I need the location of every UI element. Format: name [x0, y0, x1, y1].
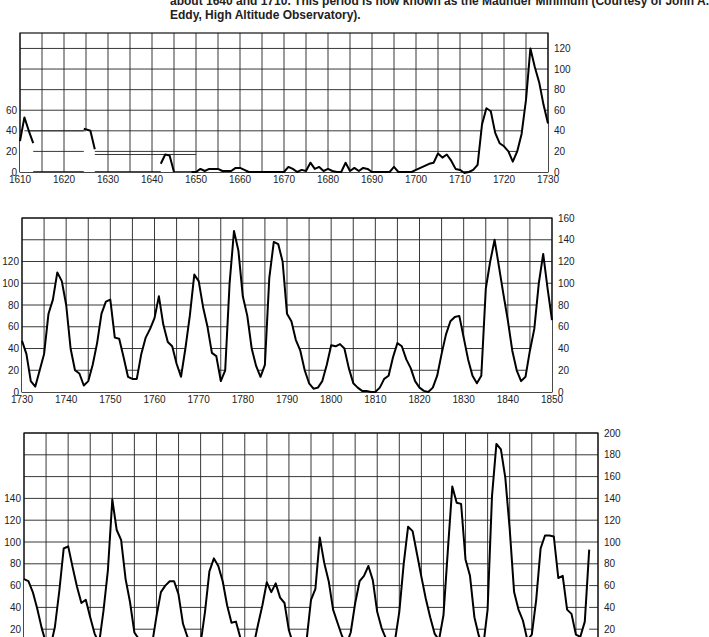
right-y-tick-label: 100 — [554, 64, 571, 75]
left-y-tick-label: 80 — [8, 300, 20, 311]
x-tick-label: 1820 — [408, 394, 431, 405]
x-tick-label: 1830 — [453, 394, 476, 405]
left-y-tick-label: 100 — [2, 278, 19, 289]
chart-3: 2040608010012014002040608010012014016018… — [4, 428, 621, 637]
right-y-tick-label: 140 — [604, 493, 621, 504]
right-y-tick-label: 20 — [558, 365, 570, 376]
right-y-tick-label: 80 — [554, 84, 566, 95]
left-y-tick-label: 40 — [8, 343, 20, 354]
right-y-tick-label: 0 — [554, 167, 560, 178]
x-tick-label: 1680 — [317, 174, 340, 185]
right-y-tick-label: 140 — [558, 234, 575, 245]
left-y-tick-label: 100 — [4, 537, 21, 548]
left-y-tick-label: 20 — [10, 624, 22, 635]
left-y-tick-label: 60 — [10, 580, 22, 591]
left-y-tick-label: 40 — [6, 125, 18, 136]
right-y-tick-label: 100 — [604, 537, 621, 548]
right-y-tick-label: 100 — [558, 278, 575, 289]
right-y-tick-label: 80 — [558, 300, 570, 311]
x-tick-label: 1630 — [97, 174, 120, 185]
right-y-tick-label: 60 — [558, 321, 570, 332]
right-y-tick-label: 180 — [604, 449, 621, 460]
x-tick-label: 1640 — [141, 174, 164, 185]
x-tick-label: 1620 — [53, 174, 76, 185]
right-y-tick-label: 60 — [554, 105, 566, 116]
x-tick-label: 1810 — [364, 394, 387, 405]
chart-2: 1730174017501760177017801790180018101820… — [2, 213, 575, 406]
left-y-tick-label: 20 — [6, 146, 18, 157]
x-tick-label: 1700 — [405, 174, 428, 185]
right-y-tick-label: 40 — [604, 602, 616, 613]
left-y-tick-label: 20 — [8, 365, 20, 376]
x-tick-label: 1750 — [99, 394, 122, 405]
x-tick-label: 1770 — [188, 394, 211, 405]
right-y-tick-label: 120 — [604, 515, 621, 526]
left-y-tick-label: 60 — [8, 321, 20, 332]
right-y-tick-label: 80 — [604, 558, 616, 569]
x-tick-label: 1710 — [449, 174, 472, 185]
x-tick-label: 1650 — [185, 174, 208, 185]
x-tick-label: 1690 — [361, 174, 384, 185]
left-y-tick-label: 80 — [10, 558, 22, 569]
left-y-tick-label: 0 — [13, 387, 19, 398]
right-y-tick-label: 200 — [604, 428, 621, 439]
right-y-tick-label: 60 — [604, 580, 616, 591]
left-y-tick-label: 0 — [11, 167, 17, 178]
left-y-tick-label: 40 — [10, 602, 22, 613]
x-tick-label: 1760 — [143, 394, 166, 405]
right-y-tick-label: 20 — [604, 624, 616, 635]
chart-1: 1610162016301640165016601670168016901700… — [6, 33, 571, 185]
x-tick-label: 1840 — [497, 394, 520, 405]
left-y-tick-label: 120 — [4, 515, 21, 526]
right-y-tick-label: 40 — [554, 125, 566, 136]
x-tick-label: 1800 — [320, 394, 343, 405]
x-tick-label: 1790 — [276, 394, 299, 405]
right-y-tick-label: 20 — [554, 146, 566, 157]
grid — [20, 33, 548, 172]
right-y-tick-label: 0 — [558, 387, 564, 398]
x-tick-label: 1660 — [229, 174, 252, 185]
left-y-tick-label: 140 — [4, 493, 21, 504]
right-y-tick-label: 120 — [558, 256, 575, 267]
x-tick-label: 1780 — [232, 394, 255, 405]
right-y-tick-label: 160 — [604, 471, 621, 482]
right-y-tick-label: 160 — [558, 213, 575, 224]
left-y-tick-label: 120 — [2, 256, 19, 267]
left-y-tick-label: 60 — [6, 105, 18, 116]
right-y-tick-label: 120 — [554, 43, 571, 54]
x-tick-label: 1720 — [493, 174, 516, 185]
right-y-tick-label: 40 — [558, 343, 570, 354]
x-tick-label: 1670 — [273, 174, 296, 185]
x-tick-label: 1740 — [55, 394, 78, 405]
